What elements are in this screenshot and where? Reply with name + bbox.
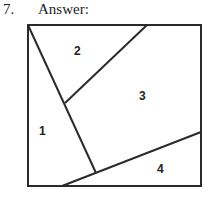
top-diagonal-line (65, 25, 147, 103)
divided-square-figure: 2 3 1 4 (0, 0, 213, 197)
bottom-diagonal-line (62, 132, 201, 186)
square-outline (28, 25, 201, 186)
region-label-3: 3 (139, 89, 146, 103)
region-label-1: 1 (39, 124, 46, 138)
region-label-2: 2 (74, 44, 81, 58)
left-diagonal-line (28, 25, 96, 173)
region-label-4: 4 (157, 162, 164, 176)
